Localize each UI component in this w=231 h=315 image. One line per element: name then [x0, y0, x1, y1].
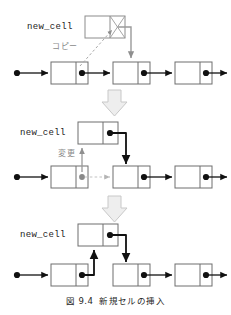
new-cell-label-step-3: new_cell	[20, 230, 66, 240]
linked-list-insertion-diagram	[0, 0, 231, 315]
new-cell-label-step-1: new_cell	[27, 22, 73, 32]
figure-9-4: new_cell コピー new_cell 変更 new_cell 図 9.4新…	[0, 0, 231, 315]
change-hint-label: 変更	[58, 147, 75, 158]
list-chain-step-3	[14, 250, 227, 286]
new-cell-label-step-2: new_cell	[20, 128, 66, 138]
copy-hint-label: コピー	[52, 40, 78, 51]
step-arrow-1	[102, 90, 127, 116]
figure-caption: 図 9.4新規セルの挿入	[0, 294, 231, 306]
figure-caption-number: 図 9.4	[66, 296, 93, 306]
step-arrow-2	[102, 196, 127, 222]
figure-caption-text: 新規セルの挿入	[99, 296, 165, 306]
list-chain-step-2	[14, 166, 227, 188]
list-chain-step-1	[14, 62, 227, 84]
